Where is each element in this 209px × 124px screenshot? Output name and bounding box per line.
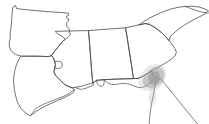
land-fills — [9, 6, 206, 124]
map-canvas: Southeastern United States outline map — [0, 0, 209, 124]
map-svg: Southeastern United States outline map — [0, 0, 209, 124]
